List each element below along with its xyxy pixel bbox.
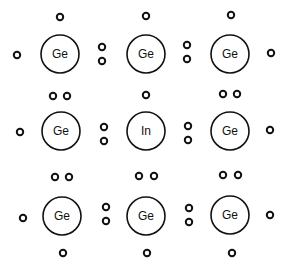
lattice-diagram: GeGeGeGeInGeGeGeGe <box>0 0 288 269</box>
atom-label: Ge <box>53 124 69 138</box>
atom-germanium: Ge <box>211 112 249 150</box>
electron-dot <box>228 12 234 18</box>
atom-label: Ge <box>138 47 154 61</box>
atom-germanium: Ge <box>211 196 249 234</box>
electron-dot <box>143 13 149 19</box>
atom-germanium: Ge <box>127 197 165 235</box>
electron-dot <box>184 42 190 48</box>
electron-dot <box>234 91 240 97</box>
electron-dot <box>267 212 273 218</box>
electron-dot <box>185 123 191 129</box>
electron-dot <box>229 250 235 256</box>
electron-dot <box>50 93 56 99</box>
electron-dot <box>99 58 105 64</box>
electron-dot <box>60 250 66 256</box>
atom-label: Ge <box>52 47 68 61</box>
atom-label: Ge <box>222 208 238 222</box>
electron-dot <box>52 174 58 180</box>
electron-dot <box>103 204 109 210</box>
electron-dot <box>99 44 105 50</box>
atom-label: In <box>141 124 151 138</box>
electron-dot <box>220 91 226 97</box>
atom-germanium: Ge <box>211 35 249 73</box>
electron-dot <box>66 174 72 180</box>
electron-dot <box>220 172 226 178</box>
atom-germanium: Ge <box>43 197 81 235</box>
atom-label: Ge <box>138 209 154 223</box>
atom-germanium: Ge <box>127 35 165 73</box>
electron-dot <box>267 127 273 133</box>
electron-dot <box>20 215 26 221</box>
electron-dot <box>136 173 142 179</box>
atom-germanium: Ge <box>41 35 79 73</box>
electron-dot <box>143 92 149 98</box>
electron-dot <box>64 93 70 99</box>
electron-dot <box>101 138 107 144</box>
electron-dot <box>101 124 107 130</box>
atom-layer: GeGeGeGeInGeGeGeGe <box>41 35 249 235</box>
electron-dot <box>14 52 20 58</box>
electron-dot <box>184 56 190 62</box>
electron-dot <box>103 218 109 224</box>
electron-dot <box>235 172 241 178</box>
atom-indium: In <box>127 112 165 150</box>
electron-dot <box>185 137 191 143</box>
electron-dot <box>57 14 63 20</box>
electron-dot <box>186 219 192 225</box>
electron-dot <box>268 50 274 56</box>
electron-dot <box>17 129 23 135</box>
atom-label: Ge <box>222 47 238 61</box>
electron-dot <box>186 205 192 211</box>
atom-label: Ge <box>222 124 238 138</box>
electron-dot <box>151 173 157 179</box>
atom-label: Ge <box>54 209 70 223</box>
atom-germanium: Ge <box>42 112 80 150</box>
electron-dot <box>144 250 150 256</box>
